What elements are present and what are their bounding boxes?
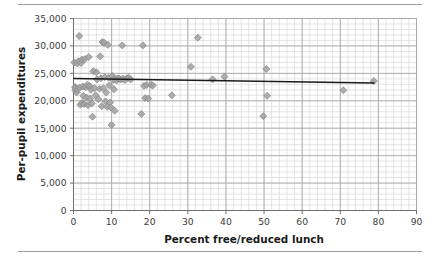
x-tick-label: 30 <box>182 216 194 227</box>
data-point-marker <box>340 87 347 94</box>
y-tick-labels: 05,00010,00015,00020,00025,00030,00035,0… <box>34 13 66 216</box>
data-point-marker <box>139 42 146 49</box>
y-tick-label: 15,000 <box>34 123 66 134</box>
y-tick-label: 5,000 <box>40 177 66 188</box>
x-tick-label: 60 <box>296 216 308 227</box>
x-tick-label: 80 <box>373 216 385 227</box>
data-point-marker <box>187 63 194 70</box>
data-point-marker <box>76 33 83 40</box>
data-point-marker <box>89 113 96 120</box>
x-tick-label: 10 <box>106 216 118 227</box>
y-tick-label: 0 <box>61 205 67 216</box>
y-tick-label: 30,000 <box>34 40 66 51</box>
bottom-divider-rule <box>18 251 422 252</box>
axis-lines <box>74 19 417 211</box>
x-tick-labels: 0102030405060708090 <box>71 216 423 227</box>
data-point-marker <box>264 92 271 99</box>
x-axis-title: Percent free/reduced lunch <box>164 233 324 245</box>
x-tick-label: 70 <box>334 216 346 227</box>
data-point-marker <box>168 92 175 99</box>
major-gridlines <box>74 19 417 211</box>
x-tick-label: 90 <box>411 216 423 227</box>
y-tick-label: 20,000 <box>34 95 66 106</box>
x-tick-label: 20 <box>144 216 156 227</box>
top-divider-rule <box>18 4 422 5</box>
y-tick-label: 25,000 <box>34 68 66 79</box>
scatter-chart: 0102030405060708090 05,00010,00015,00020… <box>0 0 440 262</box>
figure-container: 0102030405060708090 05,00010,00015,00020… <box>0 0 440 262</box>
data-point-marker <box>119 42 126 49</box>
x-tick-label: 50 <box>258 216 270 227</box>
y-axis-title: Per-pupil expenditures <box>15 47 27 181</box>
minor-gridlines <box>74 19 417 211</box>
x-tick-label: 0 <box>71 216 77 227</box>
data-point-marker <box>97 53 104 60</box>
data-point-marker <box>209 76 216 83</box>
x-tick-label: 40 <box>220 216 232 227</box>
y-tick-label: 10,000 <box>34 150 66 161</box>
data-point-marker <box>260 113 267 120</box>
y-tick-label: 35,000 <box>34 13 66 24</box>
